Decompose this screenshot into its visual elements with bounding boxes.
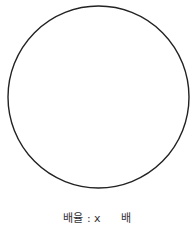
drawing-canvas [0, 0, 194, 200]
circle-shape [0, 0, 194, 200]
zoom-control: 배율 : x 배 [0, 211, 194, 227]
zoom-label: 배율 : x [63, 211, 100, 227]
zoom-unit: 배 [121, 211, 131, 227]
zoom-input[interactable] [103, 212, 119, 226]
